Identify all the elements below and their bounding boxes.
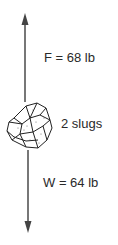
upward-force-arrow [22, 13, 29, 102]
weight-label: W = 64 lb [43, 176, 98, 189]
rock-icon [7, 103, 52, 148]
weight-arrow [25, 150, 32, 233]
mass-label: 2 slugs [61, 117, 102, 130]
force-label: F = 68 lb [44, 51, 95, 64]
